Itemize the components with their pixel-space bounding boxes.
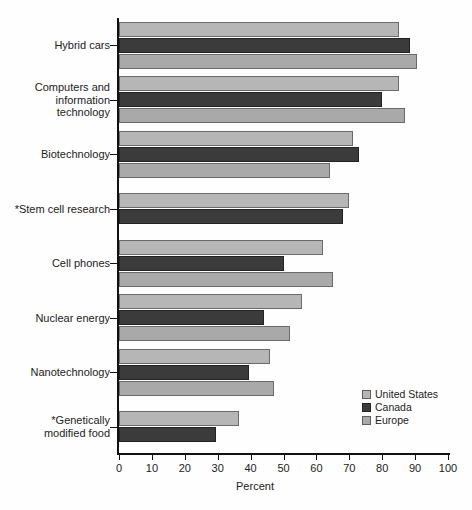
x-axis-title-text: Percent: [236, 480, 274, 492]
bar-row: [119, 54, 448, 69]
bar-group: [119, 22, 448, 70]
bar-group: [119, 193, 448, 225]
x-axis-tick-label: 60: [310, 462, 322, 474]
bar-group: [119, 131, 448, 179]
category-tick: [110, 100, 117, 101]
category-label: *Genetically modified food: [44, 414, 110, 439]
bar: [119, 92, 382, 107]
legend-item: United States: [362, 388, 438, 400]
x-axis-tick: [415, 455, 416, 460]
bar-group: [119, 294, 448, 342]
bar: [119, 310, 264, 325]
bar-group: [119, 240, 448, 288]
bar-row: [119, 272, 448, 287]
bar-row: [119, 326, 448, 341]
bar-row: [119, 365, 448, 380]
bar: [119, 427, 216, 442]
x-axis-tick-label: 80: [376, 462, 388, 474]
bar: [119, 256, 284, 271]
bar: [119, 326, 290, 341]
bar: [119, 76, 399, 91]
x-axis-tick-label: 20: [179, 462, 191, 474]
x-axis-tick-label: 70: [343, 462, 355, 474]
category-label: *Stem cell research: [15, 203, 110, 216]
category-tick: [110, 209, 117, 210]
bar-row: [119, 92, 448, 107]
x-axis-tick: [119, 455, 120, 460]
bar-row: [119, 193, 448, 208]
bar-row: [119, 240, 448, 255]
bar: [119, 22, 399, 37]
bar-row: [119, 38, 448, 53]
x-axis-title: Percent: [0, 480, 472, 492]
bar-row: [119, 427, 448, 442]
bar-row: [119, 108, 448, 123]
bar: [119, 240, 323, 255]
bar: [119, 365, 249, 380]
chart-legend: United StatesCanadaEurope: [362, 388, 438, 427]
category-tick: [110, 427, 117, 428]
bar: [119, 193, 349, 208]
category-label: Cell phones: [52, 257, 110, 270]
category-tick: [110, 318, 117, 319]
bar-row: [119, 349, 448, 364]
light-gray-swatch: [362, 390, 371, 399]
bar: [119, 411, 239, 426]
category-tick: [110, 263, 117, 264]
bar-row: [119, 22, 448, 37]
bar: [119, 349, 270, 364]
bar: [119, 163, 330, 178]
bar-row: [119, 256, 448, 271]
bar: [119, 54, 417, 69]
x-axis-tick: [152, 455, 153, 460]
legend-item-label: United States: [375, 388, 438, 400]
x-axis-tick-label: 0: [116, 462, 122, 474]
legend-item-label: Canada: [375, 401, 412, 413]
x-axis-tick: [382, 455, 383, 460]
bar-row: [119, 76, 448, 91]
bar-row: [119, 294, 448, 309]
bar: [119, 38, 410, 53]
x-axis-tick-label: 100: [439, 462, 457, 474]
category-label: Computers and information technology: [35, 81, 110, 119]
bar: [119, 381, 274, 396]
x-axis-tick: [185, 455, 186, 460]
x-axis-tick-label: 30: [212, 462, 224, 474]
x-axis-tick: [316, 455, 317, 460]
bar-row: [119, 131, 448, 146]
category-tick: [110, 372, 117, 373]
x-axis-tick-label: 90: [409, 462, 421, 474]
bar: [119, 131, 353, 146]
x-axis-tick-label: 10: [146, 462, 158, 474]
legend-item: Canada: [362, 401, 438, 413]
bar-group: [119, 76, 448, 124]
x-axis-tick: [218, 455, 219, 460]
category-label: Nanotechnology: [30, 366, 110, 379]
bar-row: [119, 147, 448, 162]
x-axis-tick-label: 50: [277, 462, 289, 474]
bar: [119, 272, 333, 287]
x-axis-tick: [284, 455, 285, 460]
category-tick: [110, 45, 117, 46]
category-tick: [110, 154, 117, 155]
legend-item: Europe: [362, 414, 438, 426]
medium-gray-swatch: [362, 416, 371, 425]
category-label: Nuclear energy: [35, 312, 110, 325]
bar-chart: Hybrid carsComputers and information tec…: [0, 0, 472, 510]
bar: [119, 294, 302, 309]
dark-gray-swatch: [362, 403, 371, 412]
x-axis-tick: [349, 455, 350, 460]
bar: [119, 108, 405, 123]
x-axis-tick-label: 40: [244, 462, 256, 474]
x-axis-tick: [448, 455, 449, 460]
bar: [119, 147, 359, 162]
bar-row: [119, 163, 448, 178]
category-label: Biotechnology: [41, 148, 110, 161]
bar-row: [119, 310, 448, 325]
legend-item-label: Europe: [375, 414, 409, 426]
bar: [119, 209, 343, 224]
x-axis-tick: [251, 455, 252, 460]
bar-row: [119, 209, 448, 224]
category-label: Hybrid cars: [54, 39, 110, 52]
